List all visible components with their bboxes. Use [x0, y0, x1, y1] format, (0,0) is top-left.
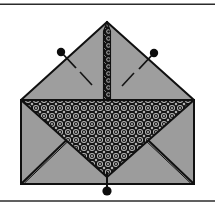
pin-bottom-head — [102, 186, 111, 195]
envelope-fold-diagram — [0, 0, 215, 212]
figure-canvas — [0, 0, 215, 212]
pin-left-head — [57, 48, 65, 56]
pin-right-head — [150, 49, 158, 57]
